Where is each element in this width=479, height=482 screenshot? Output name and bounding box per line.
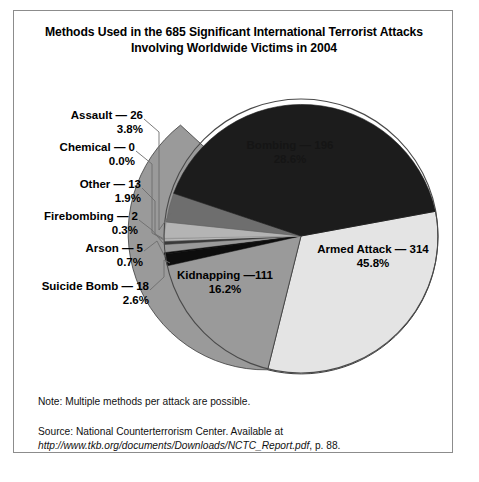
label-other: Other — 13 1.9% bbox=[14, 178, 141, 205]
label-armed-attack-pct: 45.8% bbox=[298, 257, 448, 271]
label-arson: Arson — 5 0.7% bbox=[14, 242, 143, 269]
label-suicide-bomb-pct: 2.6% bbox=[14, 294, 149, 308]
label-suicide-bomb-name: Suicide Bomb — 18 bbox=[42, 280, 149, 292]
label-firebombing-name: Firebombing — 2 bbox=[44, 210, 138, 222]
label-chemical: Chemical — 0 0.0% bbox=[14, 141, 135, 168]
source-line: http://www.tkb.org/documents/Downloads/N… bbox=[38, 439, 340, 453]
source-url[interactable]: http://www.tkb.org/documents/Downloads/N… bbox=[38, 440, 309, 451]
label-arson-name: Arson — 5 bbox=[85, 242, 143, 254]
pie-chart: Assault — 26 3.8% Chemical — 0 0.0% Othe… bbox=[14, 11, 454, 454]
label-armed-attack: Armed Attack — 314 45.8% bbox=[298, 243, 448, 270]
label-kidnapping-name: Kidnapping —111 bbox=[177, 269, 273, 281]
label-other-pct: 1.9% bbox=[14, 192, 141, 206]
label-firebombing-pct: 0.3% bbox=[14, 224, 138, 238]
label-kidnapping: Kidnapping —111 16.2% bbox=[159, 269, 291, 296]
label-kidnapping-pct: 16.2% bbox=[159, 283, 291, 297]
label-assault-name: Assault — 26 bbox=[71, 109, 143, 121]
label-firebombing: Firebombing — 2 0.3% bbox=[14, 210, 138, 237]
label-bombing-name: Bombing — 196 bbox=[247, 139, 334, 151]
label-other-name: Other — 13 bbox=[80, 178, 141, 190]
label-arson-pct: 0.7% bbox=[14, 256, 143, 270]
label-bombing-pct: 28.6% bbox=[220, 153, 360, 167]
label-assault: Assault — 26 3.8% bbox=[14, 109, 143, 136]
figure-frame: Methods Used in the 685 Significant Inte… bbox=[13, 10, 453, 453]
note-text: Note: Multiple methods per attack are po… bbox=[38, 395, 250, 409]
label-chemical-name: Chemical — 0 bbox=[60, 141, 135, 153]
label-armed-attack-name: Armed Attack — 314 bbox=[317, 243, 428, 255]
source-page: , p. 88. bbox=[309, 440, 340, 451]
source-prefix: Source: National Counterterrorism Center… bbox=[38, 425, 283, 439]
label-suicide-bomb: Suicide Bomb — 18 2.6% bbox=[14, 280, 149, 307]
label-assault-pct: 3.8% bbox=[14, 123, 143, 137]
label-chemical-pct: 0.0% bbox=[14, 155, 135, 169]
label-bombing: Bombing — 196 28.6% bbox=[220, 139, 360, 166]
